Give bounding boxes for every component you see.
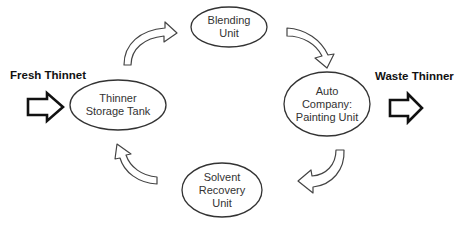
solvent-recovery-line1: Solvent [199, 171, 245, 184]
painting-unit-line2: Company: [296, 98, 358, 111]
curved-arrow-down-right-icon [287, 28, 334, 68]
blending-unit-line1: Blending [208, 14, 251, 27]
waste-thinner-label: Waste Thinner [375, 70, 454, 82]
solvent-recovery-label: Solvent Recovery Unit [182, 163, 262, 217]
diagram-canvas: Blending Unit Auto Company: Painting Uni… [0, 0, 457, 227]
painting-unit-label: Auto Company: Painting Unit [284, 72, 370, 136]
painting-unit-line3: Painting Unit [296, 111, 358, 124]
storage-tank-label: Thinner Storage Tank [70, 80, 166, 130]
fresh-thinner-label: Fresh Thinnet [10, 69, 86, 81]
painting-unit-line1: Auto [296, 85, 358, 98]
blending-unit-line2: Unit [208, 27, 251, 40]
blending-unit-label: Blending Unit [191, 8, 267, 46]
storage-tank-line2: Storage Tank [86, 105, 151, 118]
solvent-recovery-line3: Unit [199, 197, 245, 210]
solvent-recovery-line2: Recovery [199, 184, 245, 197]
curved-arrow-up-left-icon [115, 144, 157, 184]
storage-tank-line1: Thinner [86, 92, 151, 105]
curved-arrow-down-left-icon [298, 150, 344, 193]
waste-thinner-output-arrow-icon [390, 94, 422, 122]
fresh-thinner-input-arrow-icon [28, 93, 63, 121]
curved-arrow-up-right-icon [124, 22, 177, 65]
